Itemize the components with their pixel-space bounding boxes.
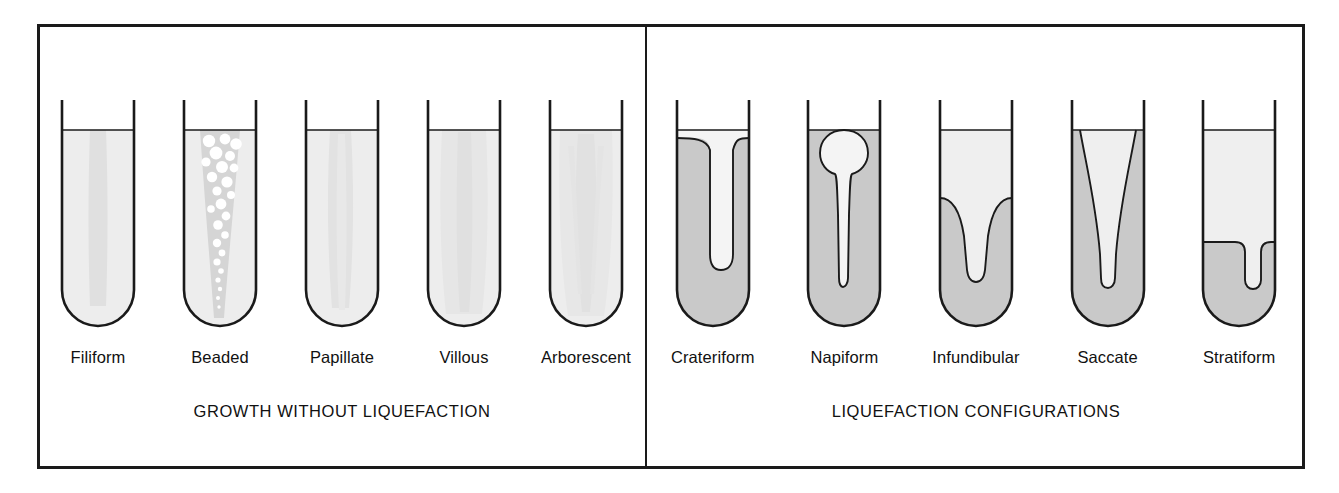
tube-beaded-illustration	[172, 94, 268, 339]
figure-root: Filiform	[0, 0, 1339, 493]
tube-filiform-illustration	[50, 94, 146, 339]
tube-saccate-illustration	[1060, 94, 1156, 339]
tube-cell-arborescent[interactable]: Arborescent	[530, 24, 642, 367]
tube-label-crateriform: Crateriform	[671, 348, 755, 367]
tube-cell-saccate[interactable]: Saccate	[1052, 24, 1164, 367]
tube-cell-infundibular[interactable]: Infundibular	[920, 24, 1032, 367]
tube-label-villous: Villous	[439, 348, 488, 367]
tube-cell-villous[interactable]: Villous	[408, 24, 520, 367]
tube-cell-napiform[interactable]: Napiform	[788, 24, 900, 367]
tube-stratiform-illustration	[1191, 94, 1287, 339]
panel-growth-without-liquefaction: Filiform	[37, 24, 647, 469]
tube-label-saccate: Saccate	[1077, 348, 1137, 367]
tube-cell-papillate[interactable]: Papillate	[286, 24, 398, 367]
tube-cell-beaded[interactable]: Beaded	[164, 24, 276, 367]
tube-row-left: Filiform	[37, 24, 647, 369]
tube-label-stratiform: Stratiform	[1203, 348, 1276, 367]
tube-label-papillate: Papillate	[310, 348, 374, 367]
tube-label-beaded: Beaded	[191, 348, 249, 367]
caption-liquefaction-configurations: LIQUEFACTION CONFIGURATIONS	[647, 402, 1305, 421]
tube-napiform-illustration	[796, 94, 892, 339]
tube-villous-illustration	[416, 94, 512, 339]
tube-crateriform-illustration	[665, 94, 761, 339]
tube-arborescent-illustration	[538, 94, 634, 339]
tube-label-napiform: Napiform	[811, 348, 879, 367]
tube-infundibular-illustration	[928, 94, 1024, 339]
tube-cell-stratiform[interactable]: Stratiform	[1183, 24, 1295, 367]
tube-label-filiform: Filiform	[71, 348, 126, 367]
tube-papillate-illustration	[294, 94, 390, 339]
tube-cell-crateriform[interactable]: Crateriform	[657, 24, 769, 367]
tube-cell-filiform[interactable]: Filiform	[42, 24, 154, 367]
panel-liquefaction-configurations: Crateriform	[647, 24, 1305, 469]
tube-label-arborescent: Arborescent	[541, 348, 631, 367]
caption-growth-without-liquefaction: GROWTH WITHOUT LIQUEFACTION	[37, 402, 647, 421]
tube-label-infundibular: Infundibular	[932, 348, 1019, 367]
tube-row-right: Crateriform	[647, 24, 1305, 369]
